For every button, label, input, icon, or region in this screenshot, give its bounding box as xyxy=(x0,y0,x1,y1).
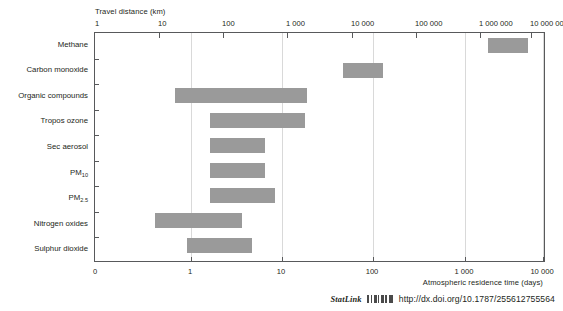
top-tick-mark xyxy=(352,33,353,38)
category-label-pm2-5: PM2.5 xyxy=(69,193,88,203)
category-label-sulphur-dioxide: Sulphur dioxide xyxy=(34,244,88,253)
statlink-wordmark: StatLink xyxy=(330,295,361,304)
range-bar-pm10 xyxy=(210,163,265,178)
top-tick-label: 1 000 000 xyxy=(479,19,513,28)
chart-figure: Travel distance (km) 1101001 00010 00010… xyxy=(0,0,563,311)
bottom-tick-label: 1 000 xyxy=(454,267,473,276)
bottom-tick-mark xyxy=(373,257,374,261)
top-tick-label: 100 000 xyxy=(415,19,442,28)
top-tick-mark xyxy=(287,33,288,38)
top-tick-mark xyxy=(159,33,160,38)
range-bar-pm2-5 xyxy=(210,188,275,203)
left-tick-mark xyxy=(95,186,99,187)
range-bar-carbon-monoxide xyxy=(343,63,383,78)
left-tick-mark xyxy=(95,135,99,136)
statlink-footer: StatLink http://dx.doi.org/10.1787/25561… xyxy=(0,292,563,306)
top-axis-title: Travel distance (km) xyxy=(95,7,166,16)
category-label-methane: Methane xyxy=(58,40,88,49)
range-bar-methane xyxy=(488,38,528,53)
gridline xyxy=(465,33,466,261)
bottom-tick-label: 1 xyxy=(188,267,192,276)
left-tick-mark xyxy=(95,59,99,60)
top-tick-label: 10 000 xyxy=(351,19,374,28)
range-bar-organic-compounds xyxy=(175,88,307,103)
category-label-tropos-ozone: Tropos ozone xyxy=(41,116,88,125)
range-bar-sulphur-dioxide xyxy=(187,238,252,253)
bottom-tick-mark xyxy=(282,257,283,261)
top-tick-label: 1 000 xyxy=(286,19,305,28)
category-axis-labels: MethaneCarbon monoxideOrganic compoundsT… xyxy=(0,32,88,262)
barcode-icon xyxy=(367,295,393,303)
bottom-tick-mark xyxy=(543,257,544,261)
bottom-axis-title: Atmospheric residence time (days) xyxy=(423,278,543,287)
bottom-tick-label: 10 000 xyxy=(530,267,553,276)
top-tick-label: 1 xyxy=(95,19,99,28)
gridline xyxy=(282,33,283,261)
statlink-url-link[interactable]: http://dx.doi.org/10.1787/255612755564 xyxy=(399,294,555,304)
bottom-tick-mark xyxy=(191,257,192,261)
left-tick-mark xyxy=(95,110,99,111)
range-bar-tropos-ozone xyxy=(210,113,305,128)
top-tick-label: 10 000 000 xyxy=(530,19,563,28)
category-label-pm10: PM10 xyxy=(70,168,88,178)
range-bar-nitrogen-oxides xyxy=(155,213,242,228)
category-label-nitrogen-oxides: Nitrogen oxides xyxy=(34,219,88,228)
top-tick-label: 100 xyxy=(222,19,235,28)
bottom-tick-label: 0 xyxy=(93,267,97,276)
top-tick-mark xyxy=(480,33,481,38)
left-tick-mark xyxy=(95,212,99,213)
top-tick-mark xyxy=(223,33,224,38)
left-tick-mark xyxy=(95,237,99,238)
top-tick-mark xyxy=(531,33,532,38)
bottom-tick-label: 10 xyxy=(277,267,285,276)
top-tick-mark xyxy=(416,33,417,38)
range-bar-sec-aerosol xyxy=(210,138,265,153)
bottom-tick-mark xyxy=(465,257,466,261)
gridline xyxy=(543,33,544,261)
left-tick-mark xyxy=(95,84,99,85)
top-tick-label: 10 xyxy=(158,19,166,28)
plot-area xyxy=(94,32,545,262)
category-label-sec-aerosol: Sec aerosol xyxy=(47,142,88,151)
left-tick-mark xyxy=(95,161,99,162)
bottom-tick-label: 100 xyxy=(366,267,379,276)
category-label-organic-compounds: Organic compounds xyxy=(18,91,88,100)
category-label-carbon-monoxide: Carbon monoxide xyxy=(26,65,88,74)
